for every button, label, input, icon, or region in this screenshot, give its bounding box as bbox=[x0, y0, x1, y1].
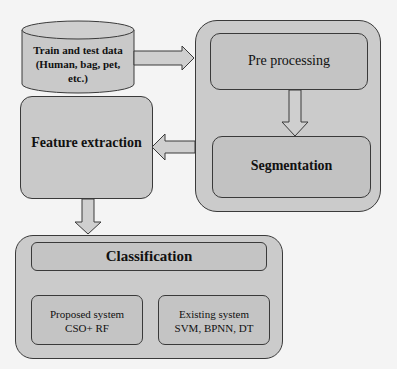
proposed-system-label: Proposed system bbox=[32, 307, 142, 321]
existing-system-box: Existing system SVM, BPNN, DT bbox=[158, 295, 270, 345]
classification-label: Classification bbox=[32, 248, 266, 265]
existing-methods-label: SVM, BPNN, DT bbox=[159, 321, 269, 335]
proposed-system-box: Proposed system CSO+ RF bbox=[31, 295, 143, 345]
proposed-method-label: CSO+ RF bbox=[32, 321, 142, 335]
existing-system-label: Existing system bbox=[159, 307, 269, 321]
classification-title-box: Classification bbox=[31, 242, 267, 271]
